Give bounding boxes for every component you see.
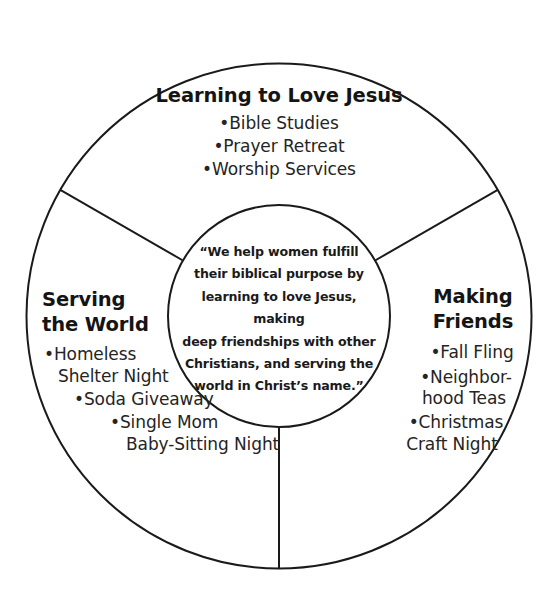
segment-item-worship-services: •Worship Services (0, 159, 558, 180)
mission-statement-line-4: deep friendships with other (179, 331, 379, 353)
mission-statement-line-2: their biblical purpose by (179, 263, 379, 285)
segment-item-christmas-craft-night-line2: Craft Night (388, 434, 558, 455)
segment-learning-to-love-jesus: Learning to Love Jesus •Bible Studies •P… (0, 84, 558, 181)
mission-statement-line-1: “We help women fulfill (179, 241, 379, 263)
divider-upper-left (60, 190, 183, 261)
segment-item-christmas-craft-night-line1: •Christmas (388, 412, 558, 433)
segment-item-neighborhood-teas-line1: •Neighbor- (388, 367, 558, 388)
segment-heading-making-friends-line1: Making (388, 285, 558, 310)
mission-statement-line-3: learning to love Jesus, making (179, 286, 379, 331)
segment-item-single-mom-baby-sitting-night-line2: Baby-Sitting Night (42, 434, 302, 455)
mission-statement: “We help women fulfill their biblical pu… (179, 241, 379, 398)
segment-item-neighborhood-teas-line2: hood Teas (388, 388, 558, 409)
ministry-wheel-diagram: Learning to Love Jesus •Bible Studies •P… (0, 0, 558, 606)
segment-item-bible-studies: •Bible Studies (0, 113, 558, 134)
segment-heading-making-friends-line2: Friends (388, 310, 558, 335)
mission-statement-line-5: Christians, and serving the (179, 353, 379, 375)
segment-item-prayer-retreat: •Prayer Retreat (0, 136, 558, 157)
segment-making-friends: Making Friends •Fall Fling •Neighbor- ho… (388, 285, 558, 455)
segment-item-fall-fling: •Fall Fling (388, 342, 558, 363)
divider-upper-right (375, 190, 498, 261)
mission-statement-line-6: world in Christ’s name.” (179, 375, 379, 397)
segment-heading-learning-to-love-jesus: Learning to Love Jesus (0, 84, 558, 109)
segment-item-single-mom-baby-sitting-night-line1: •Single Mom (42, 412, 302, 433)
